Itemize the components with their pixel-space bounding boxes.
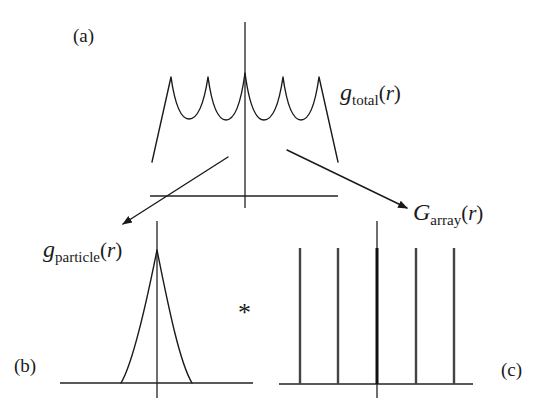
g-array-delta-spikes <box>300 248 454 384</box>
g-particle-label: gparticle(r) <box>43 237 122 261</box>
panel-c-label: (c) <box>501 360 522 379</box>
panel-b-label: (b) <box>14 356 36 375</box>
g-total-label: gtotal(r) <box>340 80 401 104</box>
convolution-diagram: (a) (b) (c) gtotal(r) Garray(r) gparticl… <box>0 0 543 410</box>
decomposition-arrows <box>123 150 407 224</box>
arrow-to-array <box>287 150 407 208</box>
panel-a-label: (a) <box>73 26 94 45</box>
arrow-to-particle <box>123 157 228 224</box>
convolution-operator: * <box>238 300 251 326</box>
panel-a-plot <box>150 22 338 208</box>
g-array-label: Garray(r) <box>413 200 483 224</box>
panel-c-plot <box>279 221 473 398</box>
